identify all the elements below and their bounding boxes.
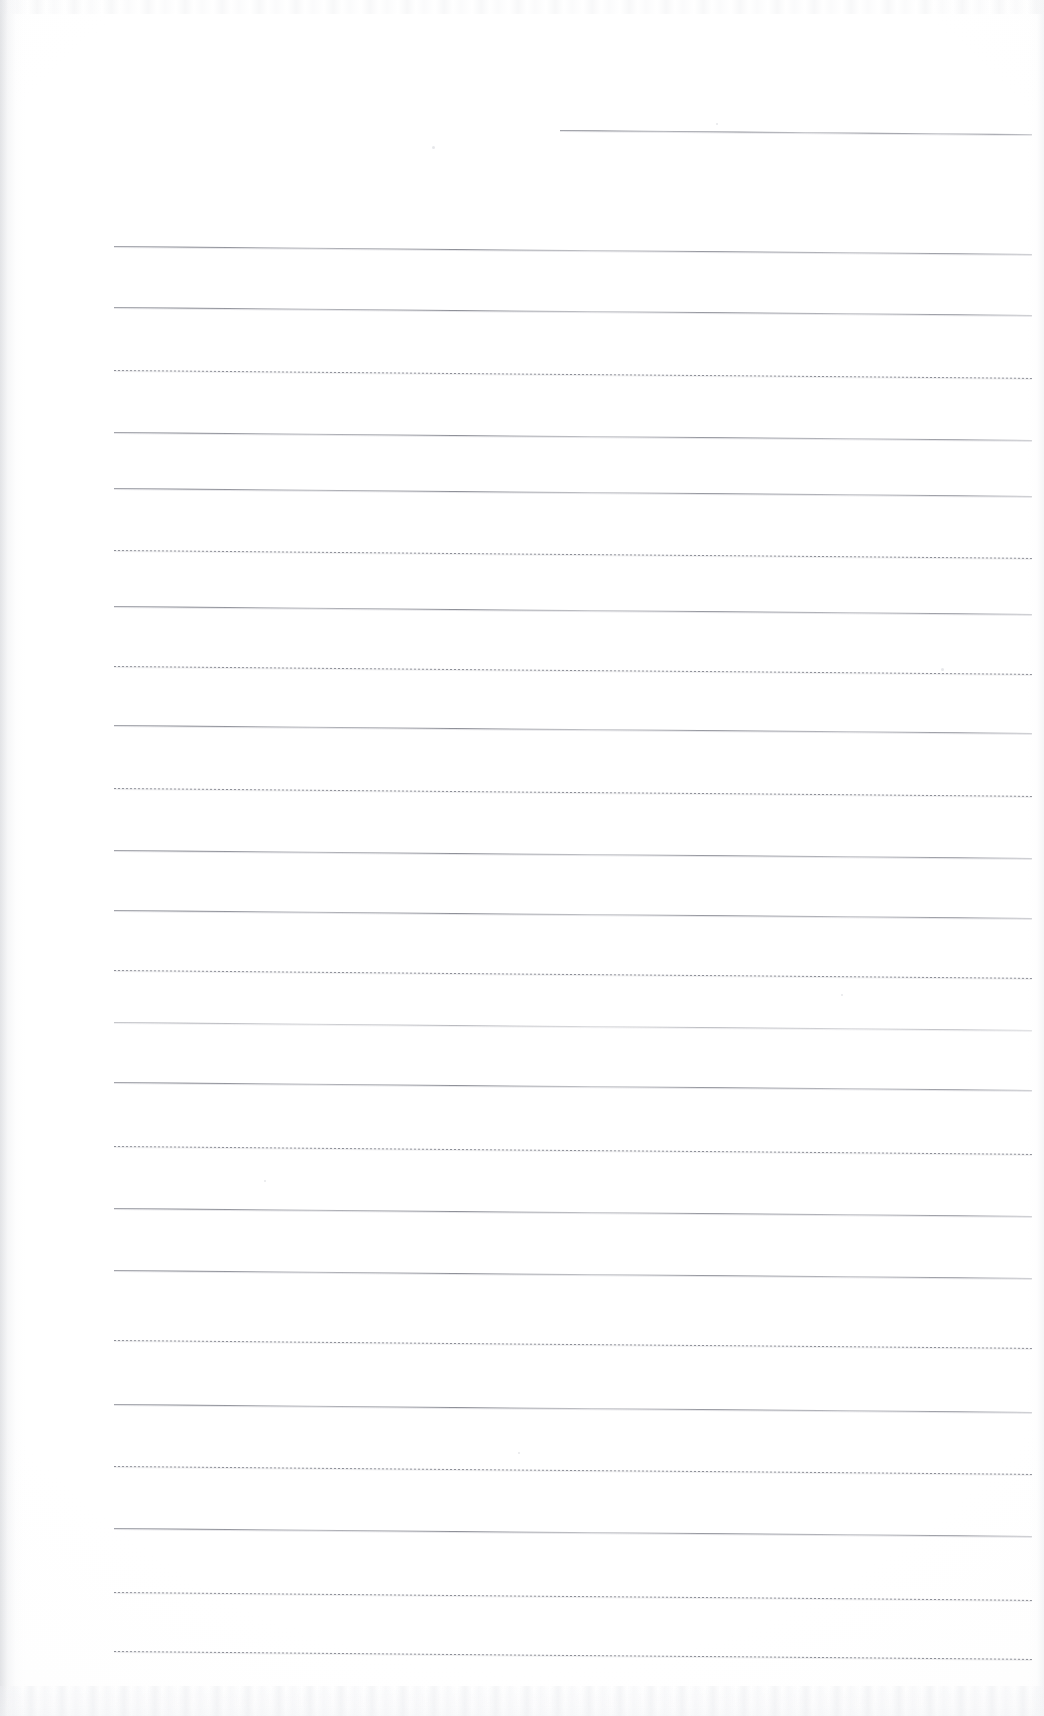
ruled-line (114, 970, 1032, 979)
ruled-line (114, 1270, 1032, 1279)
ruled-line (114, 1022, 1032, 1031)
ruled-line (114, 1082, 1032, 1091)
ruled-line (114, 1651, 1032, 1660)
ruled-line (114, 1466, 1032, 1475)
ruled-line (114, 666, 1032, 675)
ruled-line (560, 130, 1032, 135)
ruled-line (114, 1146, 1032, 1155)
ruled-line (114, 550, 1032, 559)
ruled-line (114, 1404, 1032, 1413)
ruled-line (114, 370, 1032, 379)
ruled-line (114, 1528, 1032, 1537)
ruled-line (114, 788, 1032, 797)
ruled-line (114, 1340, 1032, 1349)
scanned-page (0, 0, 1044, 1716)
ruled-line (114, 488, 1032, 497)
ruled-line (114, 1592, 1032, 1601)
ruled-line (114, 725, 1032, 734)
ruled-line (114, 307, 1032, 316)
ruled-line-layer (0, 0, 1044, 1716)
ruled-line (114, 606, 1032, 615)
ruled-line (114, 910, 1032, 919)
ruled-line (114, 246, 1032, 255)
ruled-line (114, 432, 1032, 441)
ruled-line (114, 1208, 1032, 1217)
ruled-line (114, 850, 1032, 859)
